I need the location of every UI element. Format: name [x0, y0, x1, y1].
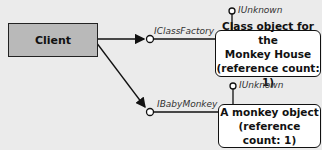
monkey-object-line-2: (reference count: 1) [219, 119, 320, 147]
class-object-line-1: Class object for the [216, 19, 320, 47]
monkey-object-line-1: A monkey object [220, 105, 318, 119]
monkey-object-iunknown-label: IUnknown [239, 80, 283, 90]
monkey-object-box: A monkey object (reference count: 1) [218, 104, 321, 148]
class-object-box: Class object for the Monkey House (refer… [215, 30, 321, 77]
ibabymonkey-label: IBabyMonkey [157, 99, 217, 109]
client-label: Client [35, 34, 71, 47]
client-box: Client [8, 23, 98, 57]
class-object-line-2: Monkey House [225, 47, 311, 61]
iclassfactory-label: IClassFactory [154, 26, 214, 36]
diagram-canvas: Client IClassFactory IUnknown Class obje… [0, 0, 322, 150]
class-object-iunknown-label: IUnknown [238, 5, 282, 15]
